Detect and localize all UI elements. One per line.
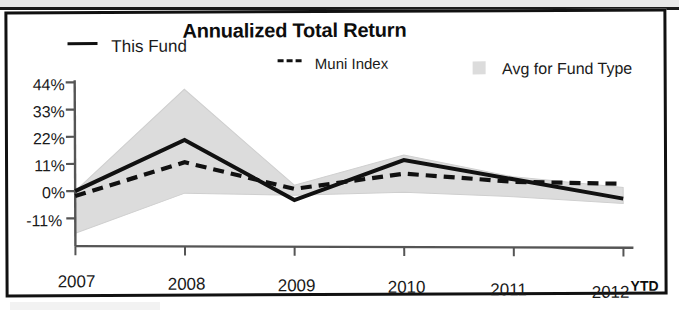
legend-item-this-fund: This Fund xyxy=(67,36,186,57)
x-axis-ytd-label: YTD xyxy=(631,278,659,294)
legend-label-muni-index: Muni Index xyxy=(315,54,388,71)
legend-dashed-line-swatch xyxy=(278,59,302,62)
x-tick-label-2007: 2007 xyxy=(47,272,107,292)
y-tick-label-0: 0% xyxy=(11,184,65,202)
scan-bottom-smudge xyxy=(10,302,160,310)
legend-item-avg-fund-type: Avg for Fund Type xyxy=(473,59,633,78)
x-tick-label-2011: 2011 xyxy=(479,280,539,300)
chart-frame: Annualized Total Return This Fund Muni I… xyxy=(4,9,667,298)
chart-title: Annualized Total Return xyxy=(182,19,406,43)
legend-solid-line-swatch xyxy=(68,42,98,45)
chart-plot-area: Annualized Total Return This Fund Muni I… xyxy=(7,12,670,301)
x-tick-label-2010: 2010 xyxy=(377,278,437,298)
y-tick-label-33: 33% xyxy=(11,103,65,121)
legend-band-swatch xyxy=(473,62,486,75)
x-tick-label-2008: 2008 xyxy=(157,275,217,295)
avg-fund-type-band xyxy=(75,87,624,233)
legend-label-this-fund: This Fund xyxy=(111,36,187,56)
y-tick-label-11: 11% xyxy=(11,157,65,175)
y-tick-label-44: 44% xyxy=(11,76,65,94)
y-tick-label-22: 22% xyxy=(11,130,65,148)
y-tick-label-neg11: -11% xyxy=(8,212,62,230)
x-tick-label-2009: 2009 xyxy=(267,276,327,296)
legend-item-muni-index: Muni Index xyxy=(278,53,389,72)
legend-label-avg-fund-type: Avg for Fund Type xyxy=(502,59,632,78)
